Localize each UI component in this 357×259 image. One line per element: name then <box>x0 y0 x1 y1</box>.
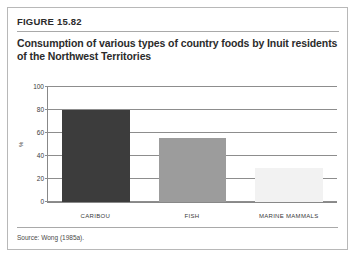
y-tick-label-0: 0 <box>40 198 44 205</box>
bar-caribou <box>62 110 129 202</box>
y-tick-label-100: 100 <box>33 83 44 90</box>
y-tick-label-20: 20 <box>37 175 44 182</box>
x-axis-label-2: MARINE MAMMALS <box>240 213 337 219</box>
bar-series <box>48 87 337 202</box>
x-axis-labels: CARIBOUFISHMARINE MAMMALS <box>47 213 337 219</box>
figure-container: FIGURE 15.82 Consumption of various type… <box>7 7 348 250</box>
bar-slot-0 <box>48 87 144 202</box>
figure-header: FIGURE 15.82 Consumption of various type… <box>17 16 339 63</box>
bar-fish <box>159 138 226 202</box>
figure-title: Consumption of various types of country … <box>17 37 339 63</box>
y-tick-label-40: 40 <box>37 152 44 159</box>
plot-area: 020406080100 <box>47 87 337 203</box>
y-tick-label-60: 60 <box>37 129 44 136</box>
x-axis-label-1: FISH <box>144 213 241 219</box>
bar-slot-2 <box>241 87 337 202</box>
y-tick-label-80: 80 <box>37 106 44 113</box>
source-divider <box>17 227 338 228</box>
bar-slot-1 <box>144 87 240 202</box>
y-axis-title: % <box>18 142 24 147</box>
bar-chart: % 020406080100 CARIBOUFISHMARINE MAMMALS <box>17 85 339 225</box>
x-axis-label-0: CARIBOU <box>47 213 144 219</box>
bar-marine-mammals <box>255 168 322 203</box>
plot-wrapper: 020406080100 <box>47 87 337 203</box>
figure-number-label: FIGURE 15.82 <box>17 16 339 30</box>
source-caption: Source: Wong (1985a). <box>17 234 84 241</box>
header-divider <box>17 31 339 32</box>
